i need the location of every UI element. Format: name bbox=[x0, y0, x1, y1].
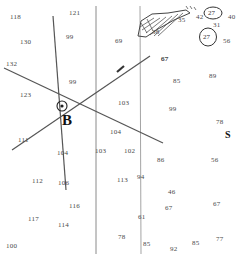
boundary-line-diagonal-descending bbox=[4, 68, 163, 143]
cluster-value: 67 bbox=[161, 56, 168, 63]
spot-value: 61 bbox=[138, 214, 145, 221]
marker-label-s: S bbox=[225, 130, 231, 140]
cluster-value: 56 bbox=[223, 38, 230, 45]
spot-value: 46 bbox=[168, 189, 175, 196]
cluster-value: 40 bbox=[228, 14, 235, 21]
spot-value: 116 bbox=[69, 203, 80, 210]
spot-value: 99 bbox=[66, 34, 73, 41]
spot-value: 67 bbox=[213, 201, 220, 208]
spot-value: 100 bbox=[6, 243, 17, 250]
spot-value: 78 bbox=[216, 119, 223, 126]
spot-value: 67 bbox=[165, 205, 172, 212]
spot-value: 103 bbox=[118, 100, 129, 107]
spot-value: 104 bbox=[110, 129, 121, 136]
spot-value: 89 bbox=[209, 73, 216, 80]
cluster-value: 35 bbox=[178, 17, 185, 24]
spot-value: 94 bbox=[137, 174, 144, 181]
spot-value: 121 bbox=[69, 10, 80, 17]
spot-value: 69 bbox=[115, 38, 122, 45]
spot-value: 56 bbox=[211, 157, 218, 164]
spot-value: 111 bbox=[18, 137, 29, 144]
boundary-line-vertical-left bbox=[53, 16, 66, 190]
spot-value: 132 bbox=[6, 61, 17, 68]
spot-value: 78 bbox=[118, 234, 125, 241]
spot-value: 112 bbox=[32, 178, 43, 185]
spot-value: 85 bbox=[192, 240, 199, 247]
cluster-value: 31 bbox=[213, 22, 220, 29]
spot-value: 113 bbox=[117, 177, 128, 184]
spot-value: 104 bbox=[57, 150, 68, 157]
spot-value: 103 bbox=[95, 148, 106, 155]
spot-value: 99 bbox=[69, 79, 76, 86]
spot-value: 123 bbox=[20, 92, 31, 99]
cluster-value: 38 bbox=[152, 29, 159, 36]
boundary-line-diagonal-ascending bbox=[12, 56, 150, 150]
cluster-value: 42 bbox=[196, 14, 203, 21]
spot-value: 92 bbox=[170, 246, 177, 253]
circled-value-27-lower: 27 bbox=[203, 34, 210, 41]
spot-value: 77 bbox=[216, 236, 223, 243]
spot-value: 85 bbox=[143, 241, 150, 248]
spot-value: 86 bbox=[157, 157, 164, 164]
survey-map-canvas: B S 27 27 118121130996913267998589123103… bbox=[0, 0, 238, 254]
circled-value-27-top: 27 bbox=[208, 10, 215, 17]
station-label-b: B bbox=[62, 113, 72, 128]
spot-value: 85 bbox=[173, 78, 180, 85]
spot-value: 117 bbox=[28, 216, 39, 223]
spot-value: 114 bbox=[58, 222, 69, 229]
spot-value: 106 bbox=[58, 180, 69, 187]
survey-station-dot-icon bbox=[60, 104, 63, 107]
hatch-tick-marks bbox=[186, 6, 196, 10]
spot-value: 102 bbox=[124, 148, 135, 155]
spot-value: 118 bbox=[10, 14, 21, 21]
spot-value: 99 bbox=[169, 106, 176, 113]
spot-value: 130 bbox=[20, 39, 31, 46]
line-tick-marker bbox=[117, 66, 124, 72]
